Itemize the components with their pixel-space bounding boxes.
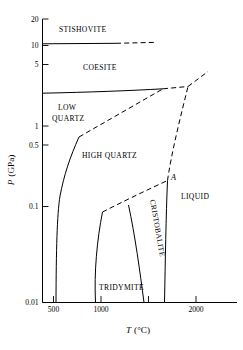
y-axis-ticks [43, 19, 49, 303]
y-axis-tick-labels: 20 10 5 1 0.5 0.1 0.01 [25, 15, 39, 308]
x-ticklabel-1000: 1000 [93, 305, 108, 314]
phase-label-low-quartz-line2: QUARTZ [52, 114, 84, 123]
y-axis-title: P(GPa) [6, 155, 16, 187]
phase-boundaries [43, 42, 209, 302]
phase-label-tridymite: TRIDYMITE [99, 283, 144, 292]
boundary-coesite-quartz-dashed [163, 87, 188, 89]
axis-titles: P(GPa) T(°C) [6, 155, 150, 335]
phase-field-labels: STISHOVITE COESITE LOW QUARTZ HIGH QUART… [52, 25, 209, 292]
y-ticklabel-20: 20 [31, 15, 39, 24]
y-ticklabel-10: 10 [31, 41, 39, 50]
x-ticklabel-2000: 2000 [188, 305, 203, 314]
x-axis-title-symbol: T [126, 325, 132, 335]
boundary-low-high-quartz-solid [56, 137, 79, 303]
y-ticklabel-1: 1 [35, 122, 39, 131]
phase-label-high-quartz: HIGH QUARTZ [82, 151, 137, 160]
phase-label-low-quartz-line1: LOW [58, 103, 77, 112]
phase-diagram-plot: 20 10 5 1 0.5 0.1 0.01 500 1000 2000 P(G… [0, 0, 243, 350]
phase-diagram-figure: 20 10 5 1 0.5 0.1 0.01 500 1000 2000 P(G… [0, 0, 243, 350]
x-axis-title: T(°C) [126, 325, 150, 335]
phase-label-liquid: LIQUID [181, 192, 209, 201]
phase-label-stishovite: STISHOVITE [59, 25, 106, 34]
boundary-coesite-liquid-melting [188, 72, 208, 87]
phase-label-cristobalite: CRISTOBALITE [148, 199, 167, 258]
x-axis-ticks [54, 296, 197, 303]
y-ticklabel-5: 5 [35, 60, 39, 69]
y-ticklabel-0-5: 0.5 [29, 141, 39, 150]
x-ticklabel-500: 500 [48, 305, 60, 314]
x-axis-tick-labels: 500 1000 2000 [48, 305, 204, 314]
phase-label-low-quartz: LOW QUARTZ [52, 103, 84, 123]
y-ticklabel-0-1: 0.1 [29, 202, 39, 211]
boundary-stishovite-coesite-solid [43, 43, 117, 44]
y-axis-title-unit: (GPa) [6, 155, 16, 177]
phase-label-coesite: COESITE [83, 63, 117, 72]
boundary-quartz-liquid-melting [168, 87, 189, 181]
y-ticklabel-0-01: 0.01 [25, 298, 38, 307]
axis-lines [43, 19, 238, 303]
x-axis-title-unit: (°C) [134, 325, 150, 335]
boundary-stishovite-coesite-dashed [116, 42, 154, 43]
boundary-low-high-quartz-dashed [79, 89, 163, 137]
annotation-label-a: A [170, 173, 177, 182]
y-axis-title-symbol: P [6, 179, 16, 186]
boundary-coesite-quartz-solid [43, 89, 164, 93]
annotation-point-a: A [170, 173, 177, 182]
